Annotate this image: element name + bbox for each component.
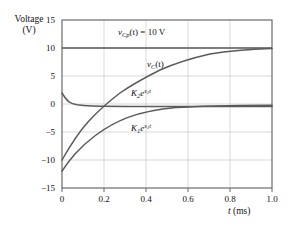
annotation-k2-exponent-t: t	[149, 87, 151, 94]
y-tick-label-neg15: −15	[29, 183, 55, 193]
annotation-k1-exponent-t: t	[149, 122, 151, 129]
y-tick-label-neg5: −5	[29, 127, 55, 137]
x-axis-title-var: t	[228, 206, 231, 216]
x-axis-title: t (ms)	[228, 206, 250, 217]
x-axis-ticks	[62, 188, 272, 192]
x-tick-label-1-0: 1.0	[259, 194, 285, 204]
annotation-vc-total: vC(t)	[147, 59, 164, 70]
y-tick-label-15: 15	[29, 15, 55, 25]
annotation-vcp-subscript: Cp	[122, 31, 130, 38]
figure-container: Voltage (V) t (ms) 15 10 5 0 −5 −10 −15 …	[0, 0, 294, 229]
x-tick-label-0-8: 0.8	[217, 194, 243, 204]
annotation-vcp-steady-state: vCp(t) = 10 V	[118, 27, 165, 38]
x-tick-label-0-2: 0.2	[91, 194, 117, 204]
x-axis-title-unit: (ms)	[233, 206, 250, 216]
y-axis-title-line2: (V)	[3, 25, 55, 36]
x-tick-label-0-4: 0.4	[133, 194, 159, 204]
annotation-vc-rest: (t)	[155, 59, 164, 69]
annotation-vcp-rest: (t) = 10 V	[130, 27, 166, 37]
annotation-k2-exp: K2es2t	[131, 87, 151, 99]
y-tick-label-5: 5	[29, 71, 55, 81]
x-tick-label-0: 0	[49, 194, 75, 204]
y-tick-label-neg10: −10	[29, 155, 55, 165]
annotation-k1-exp: K1es1t	[131, 122, 151, 134]
x-tick-label-0-6: 0.6	[175, 194, 201, 204]
y-tick-label-0: 0	[29, 99, 55, 109]
y-tick-label-10: 10	[29, 43, 55, 53]
